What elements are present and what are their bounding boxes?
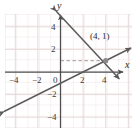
y-tick-label--4: −4 [47,113,57,122]
y-tick-label--2: −2 [47,90,57,99]
y-tick-label-4: 4 [51,23,56,32]
x-tick-label-0: 0 [53,76,58,85]
y-axis-label: y [57,1,61,11]
x-tick-label--4: −4 [9,76,19,85]
x-axis-label: x [125,60,129,70]
intersection-point-label: (4, 1) [90,32,110,41]
y-tick-label-2: 2 [51,45,56,54]
graph-canvas [0,0,137,133]
x-tick-label-4: 4 [102,76,107,85]
x-tick-label-2: 2 [80,76,85,85]
x-tick-label--2: −2 [32,76,42,85]
intersection-point-marker [103,58,108,63]
coordinate-plane-figure: x y −4 −2 0 2 4 4 2 −2 −4 (4, 1) [0,0,137,133]
